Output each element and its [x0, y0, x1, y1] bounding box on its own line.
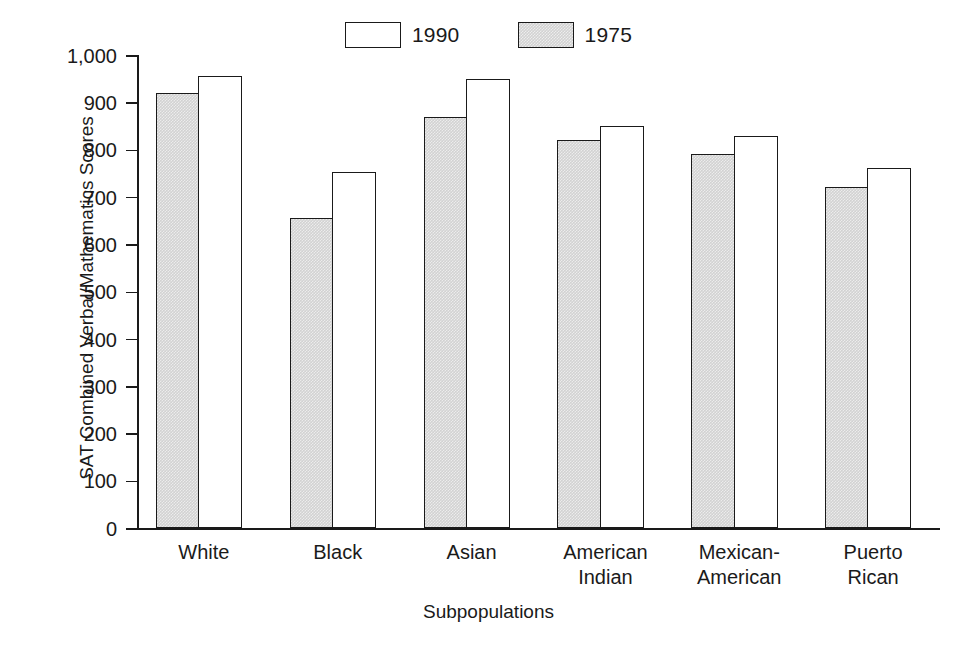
y-tick-label-800: 800	[84, 139, 117, 162]
bar-puerto-rican-1975	[825, 187, 869, 528]
y-tick-300: 300	[126, 386, 137, 388]
y-tick-label-1000: 1,000	[67, 44, 117, 67]
y-tick-label-100: 100	[84, 470, 117, 493]
bar-mexican--american-1990	[734, 136, 778, 528]
bar-white-1975	[156, 93, 200, 528]
x-category-label-0: White	[137, 540, 271, 565]
legend-entry-1975: 1975	[518, 22, 633, 48]
bar-american-indian-1990	[600, 126, 644, 528]
x-category-label-5: Puerto Rican	[806, 540, 940, 590]
y-tick-200: 200	[126, 433, 137, 435]
y-tick-100: 100	[126, 481, 137, 483]
x-axis-title: Subpopulations	[0, 601, 977, 623]
legend-swatch-1975	[518, 22, 574, 48]
y-tick-label-600: 600	[84, 233, 117, 256]
x-category-label-2: Asian	[405, 540, 539, 565]
legend-label-1975: 1975	[585, 23, 633, 47]
sat-scores-bar-chart: 1990 1975 SAT Combined Verbal/Mathematic…	[0, 0, 977, 656]
bar-american-indian-1975	[557, 140, 601, 528]
y-tick-700: 700	[126, 197, 137, 199]
y-tick-800: 800	[126, 150, 137, 152]
y-tick-label-300: 300	[84, 375, 117, 398]
x-axis-line	[137, 528, 940, 530]
bar-mexican--american-1975	[691, 154, 735, 528]
bar-puerto-rican-1990	[867, 168, 911, 528]
bar-asian-1990	[466, 79, 510, 528]
y-tick-label-400: 400	[84, 328, 117, 351]
y-tick-1000: 1,000	[126, 55, 137, 57]
legend-label-1990: 1990	[412, 23, 460, 47]
legend-swatch-1990	[345, 22, 401, 48]
y-tick-0: 0	[126, 528, 137, 530]
legend-entry-1990: 1990	[345, 22, 460, 48]
x-category-label-1: Black	[271, 540, 405, 565]
y-tick-label-200: 200	[84, 423, 117, 446]
y-tick-label-500: 500	[84, 281, 117, 304]
plot-area: 01002003004005006007008009001,000 WhiteB…	[137, 55, 940, 528]
bar-white-1990	[198, 76, 242, 528]
y-tick-400: 400	[126, 339, 137, 341]
y-tick-900: 900	[126, 102, 137, 104]
y-tick-label-700: 700	[84, 186, 117, 209]
y-tick-label-0: 0	[106, 517, 117, 540]
x-category-label-4: Mexican- American	[672, 540, 806, 590]
y-tick-600: 600	[126, 244, 137, 246]
y-tick-label-900: 900	[84, 92, 117, 115]
bar-black-1990	[332, 172, 376, 528]
x-category-label-3: American Indian	[539, 540, 673, 590]
bar-asian-1975	[424, 117, 468, 529]
chart-legend: 1990 1975	[0, 22, 977, 48]
y-tick-500: 500	[126, 292, 137, 294]
bars-layer	[137, 55, 940, 528]
bar-black-1975	[290, 218, 334, 528]
